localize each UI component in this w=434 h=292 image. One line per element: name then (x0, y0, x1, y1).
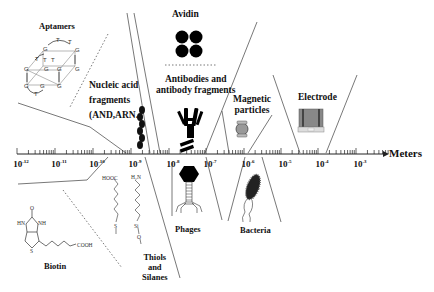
label-antibodies: Antibodies and antibody fragments (156, 74, 235, 96)
axis-tick-label: 10-11 (51, 159, 66, 169)
label-nucleic-line3: (AND,ARN... (89, 108, 143, 123)
label-magnetic-line2: particles (233, 105, 271, 116)
label-magnetic-line1: Magnetic (233, 94, 271, 105)
label-nucleic-acid-fragments: Nucleic acid fragments (AND,ARN... (89, 78, 143, 124)
axis-tick-label: 10-3 (353, 159, 366, 169)
label-antibodies-line2: antibody fragments (156, 85, 235, 96)
label-antibodies-line1: Antibodies and (156, 74, 235, 85)
label-magnetic-particles: Magnetic particles (233, 94, 271, 116)
label-phages: Phages (175, 225, 201, 235)
label-aptamers: Aptamers (39, 22, 75, 32)
axis-tick-label: 10-12 (13, 159, 29, 169)
label-thiols-silanes: Thiols and Silanes (142, 253, 168, 282)
axis-tick-label: 10-6 (241, 159, 254, 169)
axis-tick-label: 10-8 (166, 159, 179, 169)
axis-unit-label: Meters (389, 147, 422, 159)
axis-tick-label: 10-7 (203, 159, 216, 169)
label-electrode: Electrode (298, 92, 337, 103)
label-avidin: Avidin (172, 9, 199, 20)
axis-tick-label: 10-4 (315, 159, 328, 169)
label-bacteria: Bacteria (240, 226, 271, 236)
label-nucleic-line2: fragments (89, 93, 143, 108)
axis-tick-label: 10-9 (128, 159, 141, 169)
label-thiols-line3: Silanes (142, 273, 168, 283)
axis-tick-label: 10-5 (278, 159, 291, 169)
label-nucleic-line1: Nucleic acid (89, 78, 143, 93)
bacterium-icon (0, 0, 434, 292)
label-biotin: Biotin (44, 262, 66, 272)
axis-tick-label: 10-10 (89, 159, 105, 169)
